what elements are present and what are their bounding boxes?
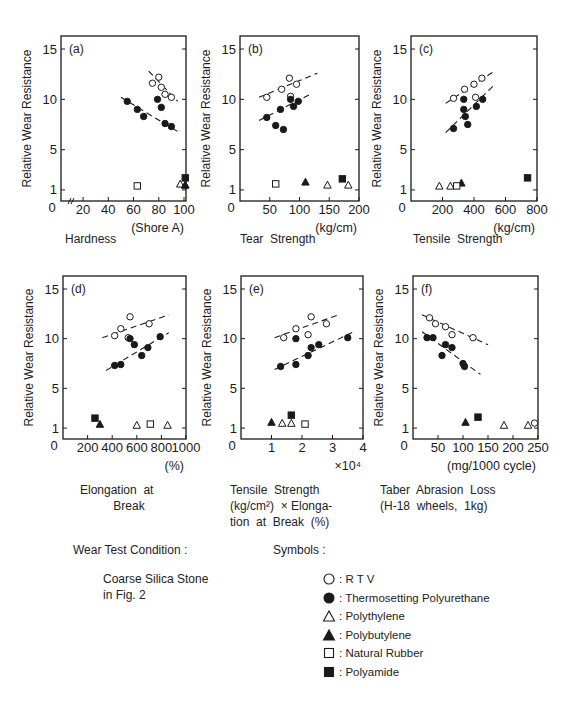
open-square-marker: [273, 181, 279, 187]
open-circle-marker: [146, 321, 152, 327]
filled-square-marker: [339, 176, 345, 182]
open-triangle-marker: [288, 419, 295, 426]
filled-circle-marker: [264, 114, 270, 120]
x-tick-label: 1: [268, 440, 275, 455]
open-circle-marker: [293, 326, 299, 332]
x-tick-label: 400: [463, 202, 485, 217]
x-tick-label: 100: [173, 202, 195, 217]
filled-triangle-icon: [322, 628, 336, 642]
panel-b-title: Tear Strength: [240, 230, 315, 249]
x-tick-label: 800: [151, 440, 173, 455]
x-tick-label: 250: [527, 440, 549, 455]
filled-circle-marker: [479, 96, 485, 102]
open-triangle-marker: [133, 421, 140, 428]
y-tick-label: 1: [230, 421, 237, 436]
open-circle-marker: [118, 326, 124, 332]
filled-square-marker: [475, 414, 481, 420]
x-tick-label: 4: [359, 440, 366, 455]
open-circle-marker: [472, 94, 478, 100]
filled-circle-marker: [145, 344, 151, 350]
open-circle-marker: [442, 324, 448, 330]
open-circle-marker: [323, 321, 329, 327]
x-tick-label: 3: [329, 440, 336, 455]
filled-circle-marker: [287, 96, 293, 102]
filled-circle-marker: [461, 96, 467, 102]
filled-circle-marker: [461, 106, 467, 112]
open-triangle-marker: [164, 421, 171, 428]
open-circle-marker: [432, 321, 438, 327]
filled-circle-marker: [154, 96, 160, 102]
filled-square-marker: [92, 415, 98, 421]
filled-circle-marker: [277, 106, 283, 112]
legend-label: : Natural Rubber: [339, 647, 423, 659]
filled-square-marker: [182, 175, 188, 181]
y-tick-label: 10: [223, 331, 237, 346]
filled-circle-marker: [124, 98, 130, 104]
y-tick-label: 15: [393, 42, 407, 57]
panel-d-title-line2: Break: [80, 497, 145, 516]
open-circle-marker: [281, 334, 287, 340]
filled-circle-marker: [295, 98, 301, 104]
open-circle-marker: [293, 81, 299, 87]
filled-circle-marker: [273, 122, 279, 128]
x-tick-label: 400: [101, 440, 123, 455]
legend-item: : Polyamide: [322, 665, 399, 679]
panel-label: (b): [248, 42, 263, 56]
origin-label: 0: [50, 438, 57, 453]
y-tick-label: 10: [222, 92, 236, 107]
open-circle-marker: [162, 91, 168, 97]
plot-frame: [411, 36, 537, 201]
legend-label: : Polybutylene: [339, 629, 411, 641]
filled-circle-marker: [139, 352, 145, 358]
filled-triangle-marker: [462, 418, 469, 425]
filled-circle-marker: [134, 106, 140, 112]
x-axis-label: ×10⁴: [334, 459, 361, 473]
y-tick-label: 15: [223, 282, 237, 297]
x-tick-label: 2: [298, 440, 305, 455]
x-axis-label: (%): [165, 459, 184, 473]
y-tick-label: 1: [229, 182, 236, 197]
y-axis-label: Relative Wear Resistance: [20, 49, 34, 187]
open-square-marker: [147, 421, 153, 427]
filled-circle-marker: [140, 113, 146, 119]
open-circle-marker: [156, 74, 162, 80]
filled-circle-marker: [118, 361, 124, 367]
x-tick-label: 50: [431, 440, 445, 455]
y-tick-label: 10: [395, 331, 409, 346]
panel-a: 151015020406080100(Shore A)Relative Wear…: [20, 36, 195, 235]
open-triangle-marker: [447, 182, 454, 189]
y-tick-label: 15: [395, 282, 409, 297]
wear-test-line2: in Fig. 2: [103, 586, 146, 605]
y-tick-label: 1: [400, 182, 407, 197]
origin-label: 0: [398, 200, 405, 215]
open-circle-marker: [158, 84, 164, 90]
filled-circle-marker: [462, 113, 468, 119]
panel-label: (a): [69, 42, 84, 56]
legend-label: : Polythylene: [339, 610, 405, 622]
open-triangle-icon: [322, 609, 336, 623]
open-circle-marker: [461, 86, 467, 92]
filled-circle-marker: [465, 121, 471, 127]
open-square-marker: [453, 183, 459, 189]
open-circle-marker: [278, 86, 284, 92]
open-triangle-marker: [524, 421, 531, 428]
open-triangle-marker: [500, 421, 507, 428]
filled-triangle-marker: [268, 418, 275, 425]
y-tick-label: 1: [50, 182, 57, 197]
open-square-marker: [134, 183, 140, 189]
y-tick-label: 5: [229, 142, 236, 157]
origin-label: 0: [228, 438, 235, 453]
filled-circle-marker: [127, 335, 133, 341]
plot-frame: [61, 36, 186, 201]
plot-frame: [63, 276, 186, 439]
x-axis-label: (mg/1000 cycle): [447, 459, 536, 473]
y-tick-label: 5: [400, 142, 407, 157]
y-tick-label: 10: [45, 331, 59, 346]
open-square-marker: [302, 421, 308, 427]
filled-square-marker: [524, 175, 530, 181]
x-axis-label: (kg/cm): [315, 221, 357, 235]
y-axis-label: Relative Wear Resistance: [22, 288, 36, 426]
filled-circle-marker: [131, 341, 137, 347]
open-triangle-marker: [324, 181, 331, 188]
y-axis-label: Relative Wear Resistance: [370, 49, 384, 187]
